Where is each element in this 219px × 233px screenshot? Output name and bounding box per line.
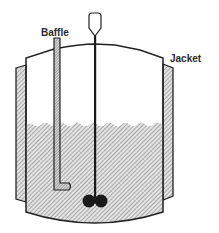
baffle-label: Baffle xyxy=(41,28,69,38)
jacket-left xyxy=(16,65,26,202)
jacket-right xyxy=(163,64,173,200)
agitator-shaft xyxy=(94,36,96,198)
jacket-label: Jacket xyxy=(170,54,201,64)
reactor-diagram xyxy=(0,0,219,233)
agitator-handle xyxy=(89,13,101,36)
